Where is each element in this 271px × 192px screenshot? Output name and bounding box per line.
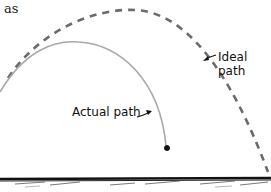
actual-arrowhead-icon <box>146 110 152 115</box>
ground-line <box>0 178 271 187</box>
ideal-path-label-line1: Ideal <box>218 50 247 64</box>
trajectory-diagram: as Ideal path Actual path <box>0 0 271 192</box>
ideal-path-curve <box>8 10 268 172</box>
ideal-path-label: Ideal path <box>218 50 247 78</box>
actual-path-label: Actual path <box>72 105 141 119</box>
ideal-path-label-line2: path <box>218 64 247 78</box>
ideal-arrowhead-icon <box>203 56 209 61</box>
fragment-text: as <box>4 1 18 16</box>
diagram-svg <box>0 0 271 192</box>
landing-point-icon <box>164 145 169 150</box>
